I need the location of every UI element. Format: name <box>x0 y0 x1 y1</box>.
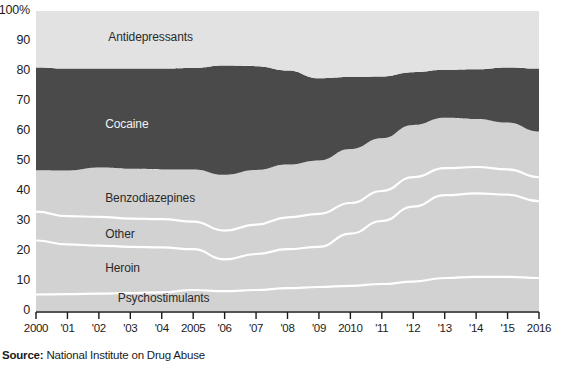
band-label-cocaine: Cocaine <box>105 117 148 131</box>
y-tick-label: 90 <box>0 33 30 47</box>
y-tick-label: 60 <box>0 123 30 137</box>
y-tick-label: 0 <box>0 303 30 317</box>
area-band-antidepressants <box>36 11 539 78</box>
band-label-other: Other <box>105 227 135 241</box>
source-text: National Institute on Drug Abuse <box>43 349 205 361</box>
y-tick-label: 40 <box>0 183 30 197</box>
source-label: Source: <box>2 349 43 361</box>
chart-canvas <box>0 0 565 371</box>
y-tick-label: 10 <box>0 273 30 287</box>
stacked-area-chart: 0102030405060708090100%2000'01'02'03'042… <box>0 0 565 371</box>
band-label-benzodiazepines: Benzodiazepines <box>105 191 195 205</box>
band-label-psychostimulants: Psychostimulants <box>118 291 210 305</box>
y-tick-label: 30 <box>0 213 30 227</box>
y-tick-label: 70 <box>0 93 30 107</box>
band-label-heroin: Heroin <box>105 261 140 275</box>
y-tick-label: 80 <box>0 63 30 77</box>
y-tick-label: 50 <box>0 153 30 167</box>
y-tick-label: 20 <box>0 243 30 257</box>
source-note: Source: National Institute on Drug Abuse <box>2 349 205 361</box>
chart-axis <box>36 312 539 319</box>
band-label-antidepressants: Antidepressants <box>108 30 193 44</box>
x-tick-label: 2016 <box>517 322 561 334</box>
y-tick-label: 100% <box>0 3 30 17</box>
